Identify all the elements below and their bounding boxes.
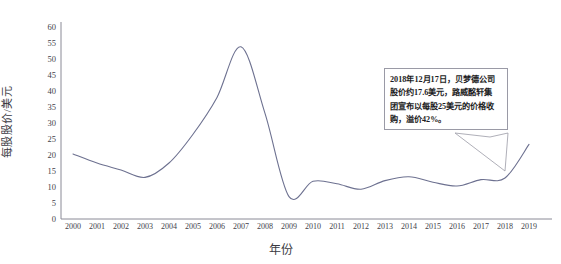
stock-price-line-chart: 每股股价/美元 60 55 50 45 40 35 30 25 20 15 10…	[0, 0, 561, 264]
callout-line-2: 股价约17.6美元，路威酩轩集	[390, 86, 502, 99]
callout-line-1: 2018年12月17日，贝梦德公司	[390, 73, 502, 86]
acquisition-callout: 2018年12月17日，贝梦德公司 股价约17.6美元，路威酩轩集 团宣布以每股…	[384, 68, 508, 130]
callout-pointer	[455, 133, 508, 171]
callout-line-3: 团宣布以每股25美元的价格收	[390, 100, 502, 113]
callout-line-4: 购，溢价42%。	[390, 113, 502, 126]
chart-plot-area	[0, 0, 561, 264]
x-axis-title: 年份	[0, 240, 561, 258]
